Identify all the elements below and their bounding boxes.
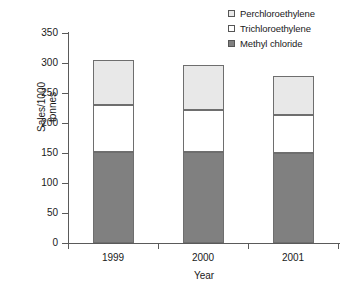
x-axis-title: Year: [68, 270, 340, 281]
x-tick-mark: [338, 243, 339, 249]
y-axis-title-line2: tonnes: [47, 52, 58, 162]
legend-label-perchloroethylene: Perchloroethylene: [240, 8, 315, 19]
y-tick-label: 350: [18, 28, 58, 38]
y-tick-label: 100: [18, 178, 58, 188]
legend-label-trichloroethylene: Trichloroethylene: [240, 23, 311, 34]
bar-segment: [93, 105, 134, 152]
legend-swatch-icon-trichloroethylene: [228, 25, 235, 32]
bar-segment: [273, 153, 314, 243]
bar-segment: [273, 76, 314, 115]
y-tick-label: 50: [18, 208, 58, 218]
x-tick-label: 1999: [83, 252, 143, 263]
stacked-bar-chart: Perchloroethylene Trichloroethylene Meth…: [0, 0, 360, 293]
plot-area: [68, 33, 338, 243]
x-tick-mark: [68, 243, 69, 249]
bar-segment: [93, 60, 134, 105]
bar-2000: [183, 33, 224, 243]
legend-item-perchloroethylene: Perchloroethylene: [228, 6, 360, 20]
y-axis-title-line1: Sales/1000: [36, 52, 47, 162]
y-tick-label: 0: [18, 238, 58, 248]
bar-segment: [183, 152, 224, 243]
bar-segment: [183, 110, 224, 152]
x-axis-line: [68, 243, 340, 244]
bar-2001: [273, 33, 314, 243]
bar-segment: [183, 65, 224, 110]
x-tick-mark: [158, 243, 159, 249]
bar-segment: [93, 152, 134, 243]
legend-swatch-icon-perchloroethylene: [228, 10, 235, 17]
bar-1999: [93, 33, 134, 243]
bar-segment: [273, 115, 314, 153]
x-tick-label: 2001: [263, 252, 323, 263]
y-axis-title: Sales/1000 tonnes: [36, 52, 58, 162]
x-tick-mark: [248, 243, 249, 249]
x-tick-label: 2000: [173, 252, 233, 263]
